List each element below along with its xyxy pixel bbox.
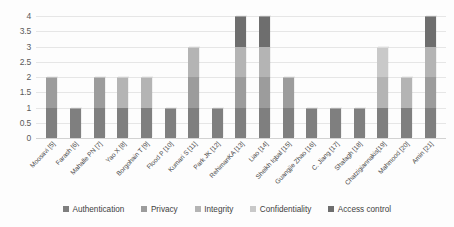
- bar-segment[interactable]: [259, 47, 270, 78]
- bar-segment[interactable]: [235, 16, 246, 47]
- bar-stack[interactable]: [94, 77, 105, 138]
- bar-stack[interactable]: [46, 77, 57, 138]
- bar-segment[interactable]: [117, 77, 128, 108]
- bar-segment[interactable]: [377, 77, 388, 108]
- bar-slot: [87, 16, 111, 138]
- bar-segment[interactable]: [235, 77, 246, 108]
- chart-legend: AuthenticationPrivacyIntegrityConfidenti…: [0, 200, 454, 218]
- y-tick-label: 1.5: [20, 87, 31, 97]
- bar-slot: [40, 16, 64, 138]
- bar-segment[interactable]: [94, 77, 105, 108]
- bar-segment[interactable]: [188, 47, 199, 78]
- legend-swatch-icon: [63, 206, 69, 212]
- y-tick-label: 0: [26, 133, 31, 143]
- legend-item[interactable]: Access control: [328, 205, 391, 214]
- legend-swatch-icon: [141, 206, 147, 212]
- legend-item[interactable]: Integrity: [195, 205, 234, 214]
- bar-segment[interactable]: [46, 77, 57, 108]
- bar-segment[interactable]: [235, 47, 246, 78]
- legend-item[interactable]: Confidentiality: [250, 205, 311, 214]
- legend-swatch-icon: [250, 206, 256, 212]
- bar-segment[interactable]: [377, 47, 388, 78]
- x-tick-slot: Mahalle PN [7]: [87, 138, 111, 196]
- y-tick-label: 3: [26, 42, 31, 52]
- x-tick-slot: Moosavi [5]: [40, 138, 64, 196]
- bar-segment[interactable]: [188, 77, 199, 108]
- x-tick-label-text: Moosavi [5]: [28, 140, 56, 169]
- stacked-bar-chart: 00.511.522.533.54 Moosavi [5]Farash [6]M…: [0, 0, 454, 227]
- y-tick-label: 0.5: [20, 118, 31, 128]
- bar-slot: [276, 16, 300, 138]
- legend-swatch-icon: [195, 206, 201, 212]
- bar-segment[interactable]: [283, 77, 294, 108]
- bar-slot: [135, 16, 159, 138]
- legend-label: Confidentiality: [260, 205, 311, 214]
- x-tick-slot: Amin [21]: [418, 138, 442, 196]
- bar-segment[interactable]: [401, 77, 412, 108]
- y-tick-label: 1: [26, 103, 31, 113]
- bar-segment[interactable]: [259, 77, 270, 108]
- x-tick-slot: RehimanKA [13]: [229, 138, 253, 196]
- bar-segment[interactable]: [425, 47, 436, 78]
- y-tick-label: 4: [26, 11, 31, 21]
- y-tick-label: 2.5: [20, 57, 31, 67]
- y-tick-label: 2: [26, 72, 31, 82]
- x-axis: Moosavi [5]Farash [6]Mahalle PN [7]Yao X…: [36, 138, 446, 196]
- bar-stack[interactable]: [401, 77, 412, 138]
- y-axis: 00.511.522.533.54: [0, 16, 34, 138]
- legend-label: Authentication: [72, 205, 124, 214]
- bar-segment[interactable]: [141, 77, 152, 108]
- bar-stack[interactable]: [141, 77, 152, 138]
- bar-segment[interactable]: [425, 16, 436, 47]
- bar-stack[interactable]: [283, 77, 294, 138]
- x-tick-slot: Mahmood [20]: [395, 138, 419, 196]
- y-tick-label: 3.5: [20, 26, 31, 36]
- legend-label: Privacy: [151, 205, 178, 214]
- legend-item[interactable]: Authentication: [63, 205, 124, 214]
- legend-item[interactable]: Privacy: [141, 205, 177, 214]
- legend-swatch-icon: [328, 206, 334, 212]
- bar-segment[interactable]: [425, 77, 436, 108]
- legend-label: Integrity: [204, 205, 233, 214]
- bar-segment[interactable]: [259, 16, 270, 47]
- legend-label: Access control: [338, 205, 391, 214]
